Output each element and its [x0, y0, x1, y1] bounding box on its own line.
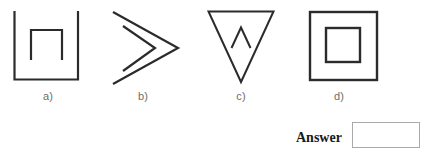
option-c-label: c) — [193, 89, 289, 103]
option-d-label: d) — [291, 89, 387, 103]
nested-squares-figure — [291, 0, 387, 90]
cup-with-inverted-u-figure — [0, 0, 96, 90]
option-a-label: a) — [0, 89, 96, 103]
option-b-label: b) — [95, 89, 191, 103]
answer-options-row: a) b) — [0, 0, 429, 112]
answer-label: Answer — [296, 129, 342, 147]
down-triangle-with-caret-figure — [193, 0, 289, 90]
double-chevron-figure — [95, 0, 191, 90]
option-d[interactable]: d) — [291, 0, 387, 112]
answer-input[interactable] — [352, 122, 420, 148]
option-b[interactable]: b) — [95, 0, 191, 112]
option-a[interactable]: a) — [0, 0, 96, 112]
option-c[interactable]: c) — [193, 0, 289, 112]
answer-row: Answer — [288, 118, 429, 154]
question-sheet: a) b) — [0, 0, 429, 158]
